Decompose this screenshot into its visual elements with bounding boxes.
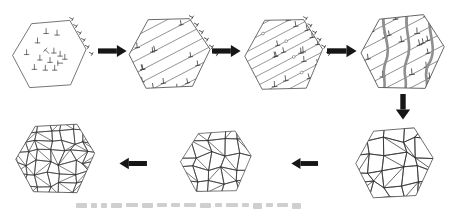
arrow-3-right-icon xyxy=(327,44,357,58)
caption-character-fragment xyxy=(171,203,180,207)
caption-character-fragment xyxy=(200,203,211,208)
hexagon-new-grains-medium xyxy=(180,121,254,201)
caption-character-fragment xyxy=(184,203,196,207)
cropped-caption-text xyxy=(76,203,368,209)
caption-character-fragment xyxy=(266,203,273,207)
caption-character-fragment xyxy=(111,203,122,208)
arrow-2-right-icon xyxy=(212,44,241,58)
caption-character-fragment xyxy=(91,203,98,208)
arrow-5-left-icon xyxy=(291,157,318,170)
caption-character-fragment xyxy=(157,203,167,207)
hexagon-shear-bands xyxy=(358,12,446,91)
caption-character-fragment xyxy=(126,203,138,207)
arrow-4-down-icon xyxy=(395,94,411,120)
caption-character-fragment xyxy=(226,203,237,207)
hexagon-dense-dislocation-walls xyxy=(243,14,325,92)
arrow-6-left-icon xyxy=(119,157,147,170)
hexagon-new-grains-coarse xyxy=(348,125,441,199)
caption-character-fragment xyxy=(277,203,289,207)
hexagon-dislocation-walls-forming xyxy=(127,14,212,92)
hexagon-refined-grains-fine xyxy=(14,116,97,199)
caption-character-fragment xyxy=(101,203,107,208)
arrow-1-right-icon xyxy=(98,44,127,58)
caption-character-fragment xyxy=(253,203,262,209)
caption-character-fragment xyxy=(142,203,153,208)
hexagon-scattered-dislocations xyxy=(11,15,89,91)
grain-refinement-figure xyxy=(0,0,452,209)
caption-character-fragment xyxy=(292,203,300,209)
caption-character-fragment xyxy=(242,203,249,207)
caption-character-fragment xyxy=(76,203,87,208)
caption-character-fragment xyxy=(215,203,222,207)
